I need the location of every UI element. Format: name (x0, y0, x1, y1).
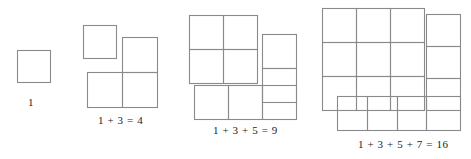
square-cell (427, 97, 461, 131)
square-cell (323, 43, 357, 77)
square-cell (263, 35, 297, 69)
square-cell (224, 50, 258, 84)
figure-3-caption: 1 + 3 + 5 = 9 (213, 124, 278, 136)
figure-4-caption: 1 + 3 + 5 + 7 = 16 (358, 138, 449, 150)
square-cell (84, 26, 117, 59)
square-cell (195, 86, 229, 120)
square-cell (391, 77, 425, 111)
figure-4-cells (323, 9, 461, 131)
figure-1-cells (18, 51, 51, 83)
square-cell (427, 79, 461, 111)
square-cell (123, 73, 158, 108)
square-cell (224, 16, 258, 50)
square-cell (338, 97, 368, 131)
square-cell (357, 43, 391, 77)
figure-2-caption: 1 + 3 = 4 (98, 114, 143, 126)
figure-2-cells (84, 26, 158, 108)
square-cell (391, 43, 425, 77)
square-cell (323, 9, 357, 43)
square-cell (123, 38, 158, 73)
square-cell (88, 73, 123, 108)
square-cell (18, 51, 51, 83)
square-cell (391, 9, 425, 43)
square-cell (190, 50, 224, 84)
square-cell (427, 47, 461, 79)
square-cell (427, 15, 461, 47)
figure-3-cells (190, 16, 297, 120)
square-cell (190, 16, 224, 50)
square-cell (323, 77, 357, 111)
square-cell (357, 77, 391, 111)
square-cell (229, 86, 263, 120)
figure-1-caption: 1 (28, 96, 34, 108)
square-cell (357, 9, 391, 43)
square-cell (398, 97, 427, 131)
square-cell (368, 97, 398, 131)
